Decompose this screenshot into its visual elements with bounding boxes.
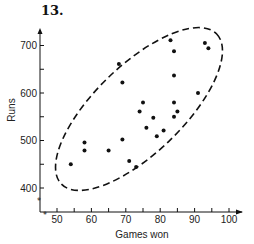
svg-text:*: * bbox=[43, 211, 47, 220]
data-point bbox=[172, 101, 176, 105]
y-tick-label: 600 bbox=[20, 88, 37, 99]
y-tick-label: 500 bbox=[20, 135, 37, 146]
data-point bbox=[172, 49, 176, 53]
data-point bbox=[162, 129, 166, 133]
data-point bbox=[175, 110, 179, 114]
data-point bbox=[69, 162, 73, 166]
data-point bbox=[127, 159, 131, 163]
data-point bbox=[117, 62, 121, 66]
data-point bbox=[141, 101, 145, 105]
scatter-plot: **4005006007005060708090100 Games won Ru… bbox=[0, 0, 254, 244]
data-point bbox=[134, 165, 138, 169]
data-point bbox=[107, 149, 111, 153]
data-point bbox=[169, 38, 173, 42]
axes: **4005006007005060708090100 bbox=[20, 28, 243, 225]
data-point bbox=[120, 138, 124, 142]
data-point bbox=[172, 115, 176, 119]
x-tick-label: 80 bbox=[155, 214, 167, 225]
x-tick-label: 60 bbox=[86, 214, 98, 225]
data-point bbox=[144, 126, 148, 130]
x-axis-title: Games won bbox=[115, 229, 168, 240]
x-tick-label: 70 bbox=[120, 214, 132, 225]
y-tick-label: 400 bbox=[20, 183, 37, 194]
data-point bbox=[203, 41, 207, 45]
y-tick-label: 700 bbox=[20, 40, 37, 51]
data-point bbox=[155, 134, 159, 138]
data-point bbox=[196, 91, 200, 95]
data-point bbox=[83, 140, 87, 144]
x-tick-label: 90 bbox=[189, 214, 201, 225]
data-point bbox=[83, 149, 87, 153]
data-point bbox=[151, 116, 155, 120]
data-point bbox=[120, 81, 124, 85]
data-point bbox=[206, 46, 210, 50]
y-axis-title: Runs bbox=[6, 98, 17, 121]
x-tick-label: 100 bbox=[221, 214, 238, 225]
svg-text:*: * bbox=[37, 197, 41, 206]
data-point bbox=[138, 110, 142, 114]
x-tick-label: 50 bbox=[51, 214, 63, 225]
data-point bbox=[172, 73, 176, 77]
data-points bbox=[69, 38, 211, 169]
dashed-ellipse bbox=[31, 2, 248, 215]
